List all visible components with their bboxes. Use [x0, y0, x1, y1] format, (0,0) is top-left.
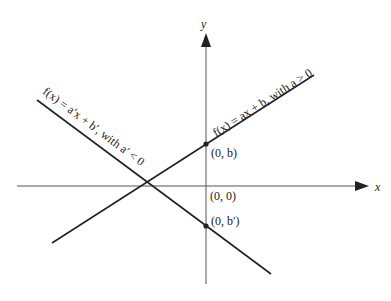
origin-label: (0, 0) — [210, 189, 236, 203]
y-axis-label: y — [200, 17, 207, 31]
x-axis-arrow-icon — [355, 181, 369, 191]
intercept-point-b — [203, 141, 208, 146]
x-axis — [17, 181, 369, 191]
graph-svg: x y (0, 0) (0, b) f(x) = ax + b, with a … — [0, 0, 391, 301]
y-axis-arrow-icon — [201, 33, 211, 47]
intercept-point-b-prime — [203, 223, 208, 228]
diagram-canvas: x y (0, 0) (0, b) f(x) = ax + b, with a … — [0, 0, 391, 301]
line-positive-slope-label: f(x) = ax + b, with a > 0 — [210, 65, 315, 139]
intercept-label-b: (0, b) — [211, 146, 237, 160]
intercept-label-b-prime: (0, b′) — [211, 214, 240, 228]
y-axis — [201, 33, 211, 284]
line-negative-slope-label: f(x) = a′x + b′, with a′ < 0 — [40, 84, 147, 169]
x-axis-label: x — [374, 180, 381, 194]
